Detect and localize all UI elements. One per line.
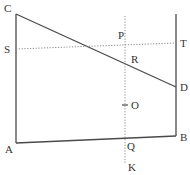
label-P: P (118, 29, 124, 41)
dotted-line-ST (16, 43, 176, 49)
label-T: T (180, 37, 187, 49)
label-A: A (5, 143, 13, 155)
segment-CD (16, 14, 176, 87)
label-R: R (131, 53, 139, 65)
segment-AB (16, 136, 176, 143)
label-Q: Q (127, 140, 135, 152)
label-K: K (128, 161, 136, 173)
label-B: B (180, 131, 187, 143)
geometry-diagram: C S A P R O Q K T D B (0, 0, 190, 175)
label-C: C (4, 2, 11, 14)
label-S: S (4, 43, 10, 55)
label-O: O (131, 99, 139, 111)
label-D: D (180, 81, 188, 93)
